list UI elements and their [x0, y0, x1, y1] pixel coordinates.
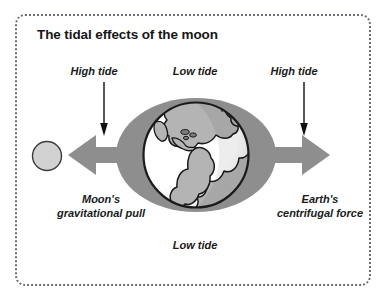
moon-circle: [33, 142, 62, 171]
island-caribbean-2: [190, 133, 197, 137]
label-low-tide-bottom: Low tide: [163, 238, 227, 252]
label-earths-centrifugal-force: Earth's centrifugal force: [275, 192, 365, 220]
label-moons-gravitational-pull: Moon's gravitational pull: [55, 192, 147, 220]
high-tide-pointer-right: [300, 82, 308, 136]
tidal-effects-diagram: The tidal effects of the moon: [0, 0, 389, 307]
island-caribbean-3: [183, 136, 188, 139]
diagram-canvas: [0, 0, 389, 307]
island-caribbean-1: [181, 130, 189, 135]
label-high-tide-left: High tide: [62, 64, 126, 78]
high-tide-pointer-left: [100, 82, 108, 136]
label-low-tide-top: Low tide: [163, 64, 227, 78]
label-high-tide-right: High tide: [262, 64, 326, 78]
